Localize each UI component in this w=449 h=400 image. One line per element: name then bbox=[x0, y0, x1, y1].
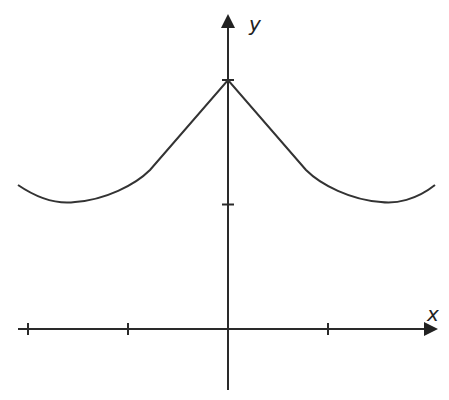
y-axis-label: y bbox=[249, 12, 261, 36]
x-axis-label: x bbox=[427, 302, 439, 326]
chart-container: y x bbox=[0, 0, 449, 400]
function-curve bbox=[18, 80, 435, 202]
y-axis-arrow-icon bbox=[221, 14, 235, 28]
chart-svg bbox=[0, 0, 449, 400]
